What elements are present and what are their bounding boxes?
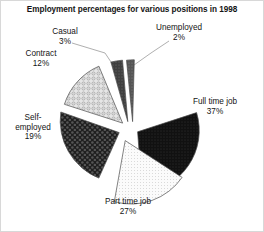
pie-label-contract-value: 12% [7,59,75,69]
pie-label-full-time-job-name: Full time job [193,97,237,106]
pie-label-unemployed-name: Unemployed [156,23,202,32]
pie-slice-unemployed[interactable] [127,60,135,122]
pie-label-self-employed-value: 19% [3,132,63,142]
pie-label-part-time-job-value: 27% [85,207,171,217]
pie-label-part-time-job-name: Part time job [105,197,151,206]
pie-slice-contract[interactable] [64,66,122,123]
pie-label-full-time-job: Full time job 37% [177,97,253,116]
pie-slices [60,60,199,204]
pie-label-contract: Contract 12% [7,49,75,68]
pie-label-part-time-job: Part time job 27% [85,197,171,216]
pie-label-unemployed: Unemployed 2% [143,23,215,42]
pie-label-self-employed-name: Self- [3,113,63,123]
pie-label-self-employed-name2: employed [3,123,63,133]
leader-line-casual [72,43,117,71]
pie-label-full-time-job-value: 37% [177,107,253,117]
chart-figure: Employment percentages for various posit… [0,0,264,232]
pie-label-casual-name: Casual [52,27,78,36]
pie-label-casual-value: 3% [37,37,93,47]
pie-label-casual: Casual 3% [37,27,93,46]
pie-slice-self-employed[interactable] [60,112,119,178]
pie-label-contract-name: Contract [26,49,57,58]
pie-label-unemployed-value: 2% [143,33,215,43]
pie-label-self-employed: Self- employed 19% [3,113,63,142]
